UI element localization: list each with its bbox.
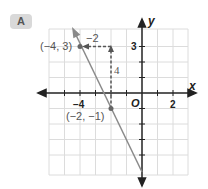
x-tick-2: 2 [170,99,176,110]
x-tick-neg4: −4 [73,99,84,110]
rise-label: 4 [114,64,120,76]
run-label: −2 [86,32,99,44]
coordinate-graph [0,0,208,189]
point-b-label: (−2, −1) [66,110,105,122]
x-axis-label: x [189,79,196,93]
point-b [109,106,114,111]
y-axis-label: y [148,14,155,28]
y-tick-3: 3 [131,41,137,52]
point-a [78,44,83,49]
point-a-label: (−4, 3) [40,40,72,52]
origin-label: O [131,97,140,109]
